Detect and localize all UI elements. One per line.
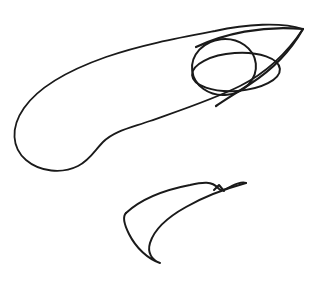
line-drawing-svg <box>0 0 317 284</box>
drawing-canvas <box>0 0 317 284</box>
